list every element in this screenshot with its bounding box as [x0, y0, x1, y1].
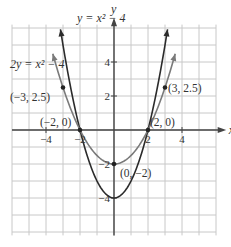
y-tick-label: −4 [98, 192, 110, 204]
point-label: (−2, 0) [40, 116, 72, 129]
x-tick-label: 4 [179, 133, 185, 145]
y-tick-label: 2 [105, 90, 111, 102]
graph: xy−4−22442−2−4(−3, 2.5)(3, 2.5)(−2, 0)(2… [0, 0, 231, 247]
data-point [61, 85, 66, 90]
data-point [146, 128, 151, 133]
x-tick-label: −2 [74, 133, 86, 145]
curve-arrow-icon [59, 29, 65, 36]
x-axis-label: x [228, 123, 231, 137]
data-point [163, 85, 168, 90]
curve-equation-label: 2y = x² − 4 [10, 57, 64, 71]
labels: xy−4−22442−2−4(−3, 2.5)(3, 2.5)(−2, 0)(2… [10, 2, 231, 204]
x-tick-label: 2 [145, 133, 151, 145]
point-label: (0, −2) [120, 167, 152, 180]
y-tick-label: −2 [98, 158, 110, 170]
point-label: (−3, 2.5) [10, 91, 50, 104]
point-label: (3, 2.5) [168, 82, 202, 95]
curve-arrow-icon [170, 54, 176, 62]
data-point [78, 128, 83, 133]
point-label: (2, 0) [150, 116, 175, 129]
data-point [112, 162, 117, 167]
curve-arrow-icon [163, 29, 169, 36]
x-axis-arrow-icon [218, 127, 227, 133]
curve-equation-label: y = x² − 4 [76, 11, 125, 25]
x-tick-label: −4 [40, 133, 52, 145]
y-tick-label: 4 [105, 56, 111, 68]
